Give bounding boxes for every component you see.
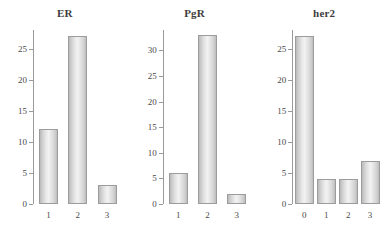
y-tick-mark <box>288 111 292 112</box>
x-label-cell: 2 <box>337 204 359 234</box>
y-tick-label: 10 <box>148 148 157 157</box>
x-tick-label: 2 <box>193 211 222 220</box>
x-tick-label: 1 <box>164 211 193 220</box>
chart-panel-her2: her2 0510152025 0123 <box>259 0 389 234</box>
y-tick-mark <box>159 178 163 179</box>
y-tick-mark <box>159 204 163 205</box>
y-tick-label: 10 <box>277 137 286 146</box>
y-tick-label: 10 <box>18 137 27 146</box>
x-tick-label: 3 <box>222 211 251 220</box>
bar-pgr-2 <box>198 35 217 204</box>
bar-her2-3 <box>361 161 380 205</box>
y-tick-mark <box>288 173 292 174</box>
bar-pgr-3 <box>227 194 246 204</box>
x-label-cell: 2 <box>193 204 222 234</box>
x-axis-labels-pgr: 123 <box>164 204 252 234</box>
y-tick-mark <box>159 127 163 128</box>
chart-panel-er: ER 0510152025 123 <box>0 0 130 234</box>
x-label-cell: 1 <box>315 204 337 234</box>
x-label-cell: 0 <box>293 204 315 234</box>
y-tick-mark <box>288 49 292 50</box>
bar-slot <box>359 30 381 204</box>
bar-chart-figure: ER 0510152025 123 PgR 051015202530 123 h… <box>0 0 389 234</box>
bar-group-er <box>34 30 122 204</box>
y-tick-mark <box>29 173 33 174</box>
y-tick-mark <box>288 142 292 143</box>
x-tick-label: 0 <box>293 211 315 220</box>
x-tick-label: 2 <box>63 211 92 220</box>
plot-area-er: 0510152025 <box>33 30 122 204</box>
y-tick-mark <box>159 76 163 77</box>
x-label-cell: 1 <box>164 204 193 234</box>
x-label-cell: 2 <box>63 204 92 234</box>
bar-her2-1 <box>317 179 336 204</box>
x-tick-label: 2 <box>337 211 359 220</box>
bar-slot <box>293 30 315 204</box>
y-tick-label: 30 <box>148 46 157 55</box>
bar-slot <box>222 30 251 204</box>
y-tick-label: 20 <box>277 75 286 84</box>
y-tick-mark <box>29 80 33 81</box>
y-tick-mark <box>29 111 33 112</box>
y-tick-label: 15 <box>18 106 27 115</box>
bar-er-3 <box>98 185 117 204</box>
y-tick-label: 0 <box>152 200 157 209</box>
y-tick-label: 5 <box>282 168 287 177</box>
panel-title-pgr: PgR <box>130 7 260 19</box>
plot-area-her2: 0510152025 <box>292 30 381 204</box>
bar-group-her2 <box>293 30 381 204</box>
x-label-cell: 3 <box>92 204 121 234</box>
x-tick-label: 3 <box>359 211 381 220</box>
bar-slot <box>63 30 92 204</box>
bar-her2-0 <box>295 36 314 204</box>
chart-panel-pgr: PgR 051015202530 123 <box>130 0 260 234</box>
bar-her2-2 <box>339 179 358 204</box>
y-tick-label: 15 <box>148 123 157 132</box>
y-tick-mark <box>288 80 292 81</box>
x-label-cell: 3 <box>359 204 381 234</box>
x-tick-label: 1 <box>34 211 63 220</box>
y-tick-label: 20 <box>18 75 27 84</box>
y-tick-mark <box>159 50 163 51</box>
y-tick-label: 15 <box>277 106 286 115</box>
panel-title-her2: her2 <box>259 7 389 19</box>
bar-slot <box>34 30 63 204</box>
bar-er-1 <box>39 129 58 204</box>
bar-er-2 <box>68 36 87 204</box>
y-tick-mark <box>288 204 292 205</box>
bar-slot <box>92 30 121 204</box>
bar-slot <box>315 30 337 204</box>
panel-title-er: ER <box>0 7 130 19</box>
bar-pgr-1 <box>169 173 188 204</box>
x-tick-label: 3 <box>92 211 121 220</box>
y-tick-mark <box>29 49 33 50</box>
y-tick-mark <box>29 204 33 205</box>
bar-slot <box>193 30 222 204</box>
plot-area-pgr: 051015202530 <box>163 30 252 204</box>
y-tick-mark <box>159 153 163 154</box>
x-tick-label: 1 <box>315 211 337 220</box>
x-label-cell: 1 <box>34 204 63 234</box>
y-tick-label: 5 <box>23 168 28 177</box>
y-tick-label: 25 <box>148 72 157 81</box>
y-tick-mark <box>29 142 33 143</box>
y-tick-label: 25 <box>18 44 27 53</box>
y-tick-label: 0 <box>282 200 287 209</box>
x-axis-labels-er: 123 <box>34 204 122 234</box>
x-label-cell: 3 <box>222 204 251 234</box>
y-tick-mark <box>159 102 163 103</box>
bar-slot <box>164 30 193 204</box>
x-axis-labels-her2: 0123 <box>293 204 381 234</box>
y-tick-label: 0 <box>23 200 28 209</box>
bar-group-pgr <box>164 30 252 204</box>
y-tick-label: 25 <box>277 44 286 53</box>
bar-slot <box>337 30 359 204</box>
y-tick-label: 5 <box>152 174 157 183</box>
y-tick-label: 20 <box>148 97 157 106</box>
